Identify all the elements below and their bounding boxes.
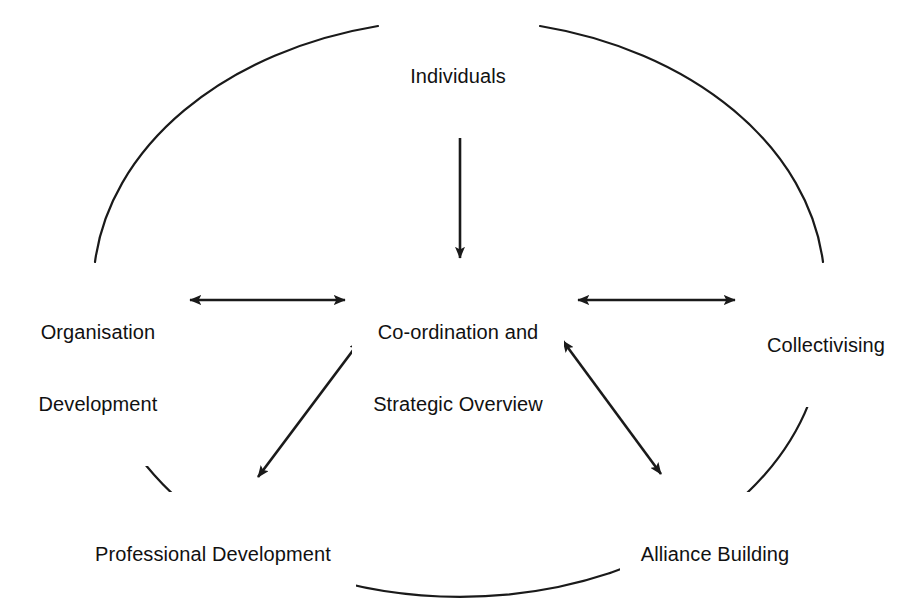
- node-label-coordination-strategic-overview-line-2: Strategic Overview: [359, 392, 557, 416]
- node-label-coordination-strategic-overview-line-1: Co-ordination and: [359, 320, 557, 344]
- diagram-canvas: Individuals Organisation Development Co-…: [0, 0, 911, 614]
- node-label-alliance-building: Alliance Building: [620, 492, 810, 614]
- ellipse-arc-upper-right: [540, 26, 823, 262]
- node-label-collectivising: Collectivising: [747, 283, 905, 407]
- node-label-alliance-building-line-1: Alliance Building: [627, 542, 803, 566]
- node-label-organisation-development-line-2: Development: [20, 392, 176, 416]
- ellipse-arc-upper-left: [95, 26, 378, 262]
- connector-center-alliance-building: [563, 341, 661, 474]
- node-label-individuals: Individuals: [384, 14, 532, 138]
- node-label-organisation-development-line-1: Organisation: [20, 320, 176, 344]
- node-label-organisation-development: Organisation Development: [13, 270, 183, 466]
- node-label-coordination-strategic-overview: Co-ordination and Strategic Overview: [352, 270, 564, 466]
- node-label-collectivising-line-1: Collectivising: [754, 333, 898, 357]
- connector-center-professional-development: [258, 341, 360, 477]
- node-label-individuals-line-1: Individuals: [391, 64, 525, 88]
- node-label-professional-development: Professional Development: [70, 492, 356, 614]
- node-label-professional-development-line-1: Professional Development: [77, 542, 349, 566]
